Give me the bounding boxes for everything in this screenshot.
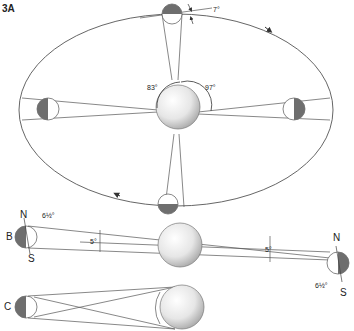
row-b-tilt-right: 6½° (315, 282, 328, 289)
angle-7-label: 7° (213, 6, 220, 13)
row-b-south-left: S (28, 253, 35, 264)
row-c-lines (28, 287, 175, 329)
moon-c (15, 296, 37, 318)
row-b-south-right: S (340, 287, 347, 298)
orbit-arrow-icon (116, 194, 120, 196)
orbit-diagram: 3A 83° 97° 7° (0, 0, 354, 331)
row-b-tilt-left: 6½° (42, 212, 55, 219)
row-b-center-angle-left: 5° (90, 238, 97, 245)
row-c-planet (160, 285, 204, 329)
moon-b-right (327, 246, 349, 282)
moon-left (37, 98, 59, 120)
row-b-north-right: N (333, 232, 340, 243)
panel-label: 3A (2, 3, 15, 14)
row-c-label: C (4, 301, 11, 312)
orbit-arrow-icon (265, 27, 270, 31)
angle-97-label: 97° (205, 84, 216, 91)
moon-b-left (15, 218, 37, 254)
angle-83-label: 83° (147, 84, 158, 91)
row-b-label: B (6, 231, 13, 242)
moon-top (162, 4, 182, 24)
row-b-planet (158, 223, 202, 267)
moon-bottom (158, 194, 178, 214)
row-b-north-left: N (20, 209, 27, 220)
moon-right (283, 98, 305, 120)
row-b-center-angle-right: 5° (265, 246, 272, 253)
central-planet (156, 85, 200, 129)
